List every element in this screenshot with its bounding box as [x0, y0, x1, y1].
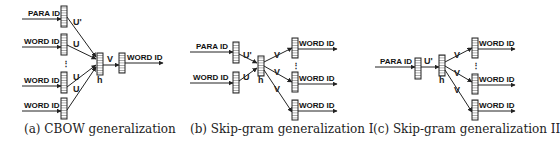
input-label: PARA ID [380, 57, 412, 66]
weight-label: U' [243, 50, 252, 60]
output-vector [292, 100, 298, 120]
caption-a: (a) CBOW generalization [24, 122, 176, 136]
output-label: WORD ID [479, 75, 515, 84]
output-vector [119, 53, 125, 73]
output-vector [472, 100, 478, 120]
weight-label: U [243, 72, 250, 82]
hidden-label: h [258, 75, 264, 85]
weight-label: U [73, 39, 80, 49]
input-label: WORD ID [193, 73, 229, 82]
weight-label: V [274, 84, 280, 94]
input-label: PARA ID [196, 42, 228, 51]
hidden-vector [439, 55, 445, 76]
weight-label: V [454, 50, 460, 60]
input-label: WORD ID [24, 76, 60, 85]
output-vector [472, 38, 478, 58]
weight-label: U [73, 72, 80, 82]
ellipsis: ⋮ [472, 61, 480, 70]
panel-a-cbow: PARA ID WORD ID WORD ID WORD ID ⋮ U' U U… [22, 6, 163, 119]
weight-arrow [67, 65, 96, 87]
weight-arrow [67, 67, 96, 110]
weight-label: U' [73, 17, 82, 27]
word-vector [61, 98, 67, 119]
ellipsis: ⋮ [62, 59, 70, 68]
input-label: WORD ID [24, 37, 60, 46]
output-label: WORD ID [299, 101, 335, 110]
para-vector [61, 6, 67, 27]
panel-b-skipgram-1: PARA ID WORD ID U' U h V V V ⋮ WORD ID W… [190, 38, 337, 120]
weight-label: U [73, 84, 80, 94]
caption-c: (c) Skip-gram generalization II [373, 122, 560, 136]
caption-b: (b) Skip-gram generalization I [190, 122, 374, 136]
output-label: WORD ID [479, 101, 515, 110]
weight-label: V [454, 68, 460, 78]
weight-label: U' [424, 56, 433, 66]
weight-label: V [107, 54, 113, 64]
word-vector [61, 34, 67, 55]
word-vector [61, 72, 67, 93]
output-label: WORD ID [299, 74, 335, 83]
output-label: WORD ID [479, 39, 515, 48]
output-vector [292, 72, 298, 92]
panel-c-skipgram-2: PARA ID U' h V V V ⋮ WORD ID WORD ID WOR… [375, 38, 515, 120]
hidden-label: h [97, 75, 103, 85]
output-vector [292, 38, 298, 58]
hidden-label: h [439, 75, 445, 85]
output-label: WORD ID [299, 39, 335, 48]
hidden-vector [97, 53, 103, 75]
output-label: WORD ID [127, 53, 163, 62]
word-vector [233, 72, 239, 93]
para-vector [415, 58, 421, 79]
ellipsis: ⋮ [292, 61, 300, 70]
input-label: PARA ID [28, 9, 60, 18]
weight-label: V [274, 67, 280, 77]
output-vector [472, 74, 478, 94]
input-label: WORD ID [24, 101, 60, 110]
para-vector [233, 42, 239, 63]
weight-label: V [274, 50, 280, 60]
weight-arrow [67, 45, 96, 59]
hidden-vector [258, 56, 264, 76]
weight-label: V [454, 85, 460, 95]
